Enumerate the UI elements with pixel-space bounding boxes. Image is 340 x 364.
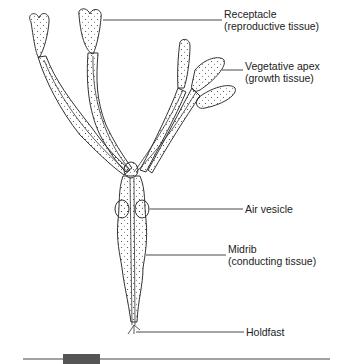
- air-vesicle-left: [115, 200, 129, 218]
- receptacle-right: [79, 9, 102, 54]
- footer-block: [63, 354, 100, 364]
- label-vegetative-apex: Vegetative apex (growth tissue): [245, 60, 320, 84]
- air-vesicle-right: [135, 200, 149, 218]
- label-receptacle: Receptacle (reproductive tissue): [224, 8, 319, 32]
- seaweed-illustration: [0, 0, 340, 364]
- label-holdfast: Holdfast: [246, 326, 285, 338]
- apex-upper: [178, 39, 190, 88]
- receptacle-left: [30, 13, 49, 58]
- apex-middle: [192, 58, 225, 91]
- label-air-vesicle: Air vesicle: [245, 203, 293, 215]
- label-midrib: Midrib (conducting tissue): [228, 243, 316, 267]
- seaweed-diagram: Receptacle (reproductive tissue) Vegetat…: [0, 0, 340, 364]
